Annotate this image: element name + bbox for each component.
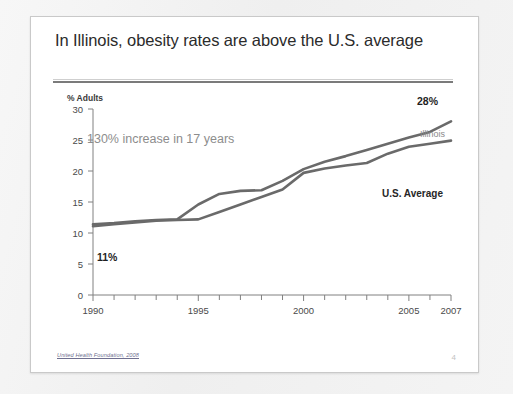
divider-thick-line — [53, 81, 453, 83]
series-label-us-average: U.S. Average — [382, 188, 443, 199]
divider-thin-line — [53, 79, 453, 80]
presentation-slide: In Illinois, obesity rates are above the… — [30, 16, 479, 373]
start-value-label: 11% — [97, 251, 118, 263]
y-tick-label: 15 — [72, 197, 83, 208]
chart-svg: % Adults 051015202530 199019952000200520… — [31, 87, 479, 373]
x-tick-label: 1995 — [188, 305, 209, 316]
y-tick-label: 30 — [72, 104, 83, 115]
y-tick-label: 20 — [72, 166, 83, 177]
increase-annotation: 130% increase in 17 years — [87, 132, 234, 146]
x-tick-group: 19901995200020052007 — [82, 295, 461, 316]
screenshot-canvas: In Illinois, obesity rates are above the… — [0, 0, 513, 394]
line-chart: % Adults 051015202530 199019952000200520… — [31, 87, 479, 373]
x-tick-label: 2005 — [398, 305, 419, 316]
series-line-u-s-average — [93, 141, 451, 227]
y-tick-label: 10 — [72, 228, 83, 239]
series-label-illinois: Illinois — [420, 129, 446, 139]
y-tick-label: 0 — [78, 290, 83, 301]
end-value-label: 28% — [417, 95, 439, 107]
x-tick-label: 2000 — [293, 305, 314, 316]
y-tick-label: 5 — [78, 259, 83, 270]
x-tick-label: 2007 — [440, 305, 461, 316]
title-divider — [53, 79, 453, 83]
source-citation[interactable]: United Health Foundation, 2008 — [57, 352, 139, 358]
slide-number: 4 — [452, 353, 456, 362]
x-tick-label: 1990 — [82, 305, 103, 316]
y-tick-label: 25 — [72, 135, 83, 146]
page-title: In Illinois, obesity rates are above the… — [55, 29, 447, 52]
y-axis-title: % Adults — [67, 93, 103, 103]
